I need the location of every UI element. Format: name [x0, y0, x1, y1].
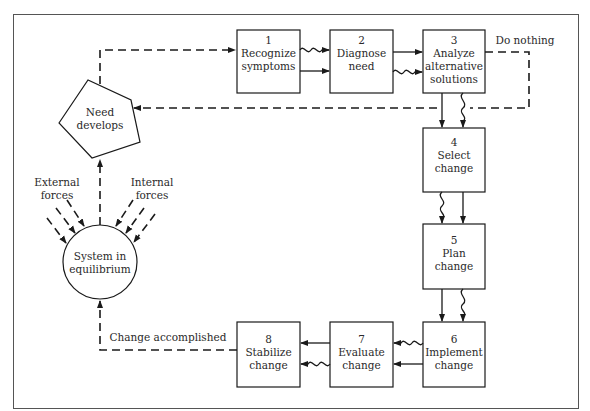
- internal-force-arrow-1: [116, 200, 133, 226]
- arrow-4-5-wavy: [440, 192, 443, 223]
- step-8-label: 8 Stabilize change: [237, 333, 300, 372]
- internal-forces-label: Internal forces: [125, 176, 179, 202]
- change-accomplished-label: Change accomplished: [108, 331, 228, 344]
- external-force-arrow-1: [47, 218, 66, 243]
- external-force-arrow-2: [56, 208, 75, 233]
- system-equilibrium-label: System in equilibrium: [63, 250, 137, 276]
- arrow-1-2-wavy: [300, 48, 329, 51]
- step-6-label: 6 Implement change: [421, 333, 487, 372]
- step-7-label: 7 Evaluate change: [330, 333, 393, 372]
- step-4-label: 4 Select change: [423, 136, 485, 175]
- step-1-label: 1 Recognize symptoms: [237, 34, 300, 73]
- step-2-label: 2 Diagnose need: [330, 34, 393, 73]
- internal-force-arrow-2: [126, 208, 144, 233]
- arrow-3-4-wavy: [461, 93, 464, 127]
- step-5-label: 5 Plan change: [423, 234, 485, 273]
- dashed-need-to-step1: [100, 50, 235, 84]
- external-force-arrow-3: [67, 200, 84, 226]
- need-develops-label: Need develops: [68, 106, 132, 132]
- external-forces-label: External forces: [30, 176, 84, 202]
- do-nothing-label: Do nothing: [490, 34, 560, 47]
- arrow-6-7-wavy: [394, 341, 423, 344]
- arrow-2-3-wavy: [393, 70, 422, 73]
- step-3-label: 3 Analyze alternative solutions: [421, 34, 487, 86]
- arrow-7-8-wavy: [301, 362, 330, 365]
- internal-force-arrow-3: [134, 214, 155, 242]
- arrow-5-6-wavy: [461, 289, 464, 321]
